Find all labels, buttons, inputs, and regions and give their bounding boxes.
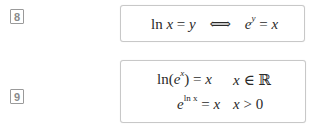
ln-close: ) <box>184 71 189 87</box>
ln-function: ln <box>151 16 163 32</box>
reals-symbol: ℝ <box>258 72 270 88</box>
equals-sign: = <box>201 96 209 112</box>
greater-than-symbol: > <box>243 96 251 112</box>
variable-x: x <box>166 16 173 32</box>
equation-number-8: 8 <box>10 9 24 24</box>
equation-9-row-1: ln(ex) = x <box>157 71 212 88</box>
variable-x-2: x <box>271 16 278 32</box>
equals-sign: = <box>193 71 201 87</box>
variable-y: y <box>189 16 196 32</box>
exp-superscript: y <box>251 13 255 23</box>
equals-sign-2: = <box>259 16 267 32</box>
iff-arrow-icon: ⟺ <box>209 16 231 32</box>
ln-open: ln( <box>157 71 174 87</box>
element-of-symbol: ∈ <box>243 72 254 88</box>
equation-box-9: ln(ex) = x x ∈ ℝ eln x = x x > 0 <box>120 60 306 123</box>
condition-variable: x <box>233 96 240 112</box>
condition-variable: x <box>233 72 240 88</box>
exp-superscript: x <box>180 68 184 78</box>
exp-base: e <box>177 96 184 112</box>
exp-superscript: ln x <box>184 93 198 103</box>
equals-sign: = <box>177 16 185 32</box>
equation-9-row-2-condition: x > 0 <box>233 96 263 113</box>
equation-9-row-2: eln x = x <box>177 96 220 113</box>
rhs-variable: x <box>205 71 212 87</box>
equation-box-8: ln x = y ⟺ ey = x <box>120 5 305 42</box>
zero-value: 0 <box>256 96 264 112</box>
equation-number-9: 9 <box>10 89 24 104</box>
equation-8-text: ln x = y ⟺ ey = x <box>151 15 278 33</box>
rhs-variable: x <box>213 96 220 112</box>
equation-9-row-1-condition: x ∈ ℝ <box>233 71 271 89</box>
